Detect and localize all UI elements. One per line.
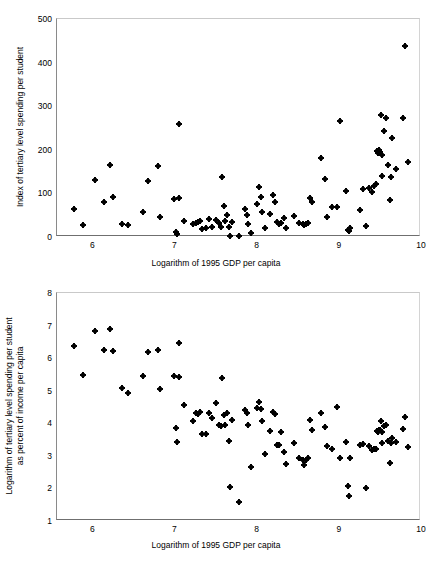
scatter-point	[361, 442, 365, 446]
scatter-point	[263, 226, 267, 230]
y-axis-tick-label: 500	[38, 15, 52, 24]
y-axis-tick-label: 6	[47, 354, 52, 363]
scatter-point	[338, 119, 342, 123]
scatter-point	[279, 430, 283, 434]
scatter-point	[108, 163, 112, 167]
plot-area-top: 0100200300400500678910	[56, 18, 420, 236]
scatter-point	[230, 418, 234, 422]
x-axis-tick-label: 6	[90, 241, 95, 250]
scatter-point	[335, 205, 339, 209]
scatter-point	[325, 215, 329, 219]
scatter-point	[158, 215, 162, 219]
scatter-point	[257, 400, 261, 404]
scatter-point	[246, 423, 250, 427]
scatter-point	[323, 177, 327, 181]
x-axis-title-bottom: Logarithm of 1995 GDP per capita	[0, 540, 432, 550]
scatter-point	[292, 214, 296, 218]
scatter-point	[323, 425, 327, 429]
scatter-point	[348, 226, 352, 230]
y-axis-tick-label: 0	[47, 233, 52, 242]
chart-top-index-spending: 0100200300400500678910 Logarithm of 1995…	[0, 0, 432, 281]
scatter-point	[374, 447, 378, 451]
scatter-point	[308, 418, 312, 422]
scatter-point	[268, 429, 272, 433]
x-axis-tick-label: 10	[416, 241, 425, 250]
y-axis-title-bottom: Logarithm of tertiary level spending per…	[4, 317, 25, 494]
scatter-point	[388, 461, 392, 465]
scatter-point	[214, 401, 218, 405]
x-axis-tick-label: 10	[416, 525, 425, 534]
scatter-point	[260, 419, 264, 423]
scatter-point	[370, 190, 374, 194]
scatter-point	[344, 440, 348, 444]
scatter-point	[108, 327, 112, 331]
x-axis-tick-label: 9	[336, 525, 341, 534]
scatter-point	[394, 440, 398, 444]
scatter-point	[156, 348, 160, 352]
scatter-point	[259, 195, 263, 199]
scatter-point	[93, 329, 97, 333]
scatter-point	[306, 221, 310, 225]
scatter-point	[302, 463, 306, 467]
scatter-point	[347, 494, 351, 498]
scatter-point	[243, 207, 247, 211]
scatter-point	[158, 387, 162, 391]
scatter-point	[141, 374, 145, 378]
y-axis-tick-label: 300	[38, 102, 52, 111]
scatter-point	[210, 225, 214, 229]
scatter-point	[384, 423, 388, 427]
scatter-point	[204, 432, 208, 436]
scatter-point	[249, 465, 253, 469]
x-axis-tick-label: 6	[90, 525, 95, 534]
y-axis-tick-label: 4	[47, 419, 52, 428]
scatter-point	[230, 220, 234, 224]
scatter-point	[146, 179, 150, 183]
y-axis-tick-label: 5	[47, 386, 52, 395]
scatter-point	[382, 129, 386, 133]
scatter-point	[335, 405, 339, 409]
scatter-point	[348, 456, 352, 460]
y-axis-title-bottom-line1: Logarithm of tertiary level spending per…	[4, 317, 15, 494]
scatter-point	[279, 221, 283, 225]
y-axis-tick-label: 2	[47, 484, 52, 493]
scatter-point	[126, 223, 130, 227]
scatter-point	[389, 441, 393, 445]
chart-bottom-log-spending: 12345678678910 Logarithm of 1995 GDP per…	[0, 281, 432, 563]
scatter-point	[249, 231, 253, 235]
scatter-point	[380, 153, 384, 157]
scatter-point	[177, 196, 181, 200]
scatter-point	[284, 462, 288, 466]
scatter-point	[401, 116, 405, 120]
scatter-point	[220, 376, 224, 380]
scatter-point	[220, 175, 224, 179]
scatter-point	[403, 44, 407, 48]
scatter-point	[245, 411, 249, 415]
scatter-point	[191, 419, 195, 423]
scatter-point	[93, 178, 97, 182]
scatter-point	[260, 210, 264, 214]
scatter-point	[102, 200, 106, 204]
scatter-point	[361, 187, 365, 191]
scatter-point	[227, 439, 231, 443]
y-axis-tick-label: 3	[47, 452, 52, 461]
scatter-point	[384, 116, 388, 120]
scatter-point	[245, 213, 249, 217]
y-axis-title-bottom-line2: as percent of income per capita	[15, 317, 26, 494]
scatter-point	[156, 164, 160, 168]
scatter-point	[401, 427, 405, 431]
scatter-point	[364, 224, 368, 228]
scatter-point	[284, 226, 288, 230]
scatter-point	[374, 182, 378, 186]
scatter-point	[319, 411, 323, 415]
scatter-point	[406, 160, 410, 164]
scatter-point	[319, 156, 323, 160]
scatter-point	[177, 341, 181, 345]
scatter-point	[310, 200, 314, 204]
scatter-point	[282, 216, 286, 220]
scatter-point	[237, 500, 241, 504]
scatter-point	[259, 407, 263, 411]
scatter-point	[271, 193, 275, 197]
scatter-point	[237, 234, 241, 238]
scatter-point	[257, 185, 261, 189]
x-axis-tick-label: 7	[172, 525, 177, 534]
